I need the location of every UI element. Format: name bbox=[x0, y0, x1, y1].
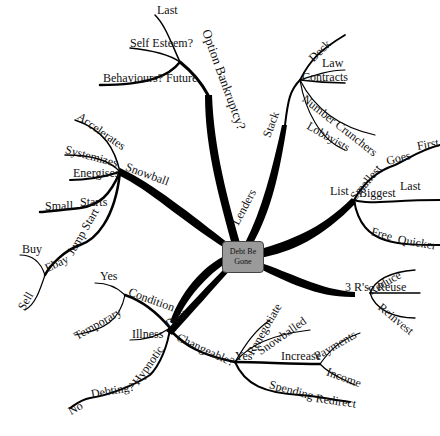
node-behaviours-future[interactable]: Behaviours? Future bbox=[103, 72, 197, 84]
node-first[interactable]: First bbox=[416, 136, 440, 152]
node-buy[interactable]: Buy bbox=[22, 243, 42, 255]
mind-map-canvas: Debt Be Gone Option Bankruptcy? Last Sel… bbox=[0, 0, 440, 436]
node-last[interactable]: Last bbox=[157, 4, 178, 16]
node-law[interactable]: Law bbox=[322, 57, 343, 69]
branch-list[interactable]: List bbox=[330, 185, 349, 197]
node-energises[interactable]: Energises bbox=[73, 167, 119, 179]
node-yes-condition[interactable]: Yes bbox=[100, 270, 117, 282]
node-contracts[interactable]: Contracts bbox=[302, 71, 348, 83]
center-label-line1: Debt Be bbox=[230, 247, 256, 257]
node-last-list[interactable]: Last bbox=[400, 180, 421, 192]
node-reuse[interactable]: Reuse bbox=[377, 281, 406, 293]
center-node[interactable]: Debt Be Gone bbox=[222, 241, 264, 273]
node-illness[interactable]: Illness bbox=[132, 328, 163, 340]
node-biggest[interactable]: Biggest bbox=[359, 187, 396, 199]
node-small[interactable]: Small bbox=[45, 200, 73, 212]
node-starts[interactable]: Starts bbox=[80, 196, 107, 208]
center-label-line2: Gone bbox=[234, 257, 251, 267]
node-self-esteem[interactable]: Self Esteem? bbox=[130, 37, 193, 49]
